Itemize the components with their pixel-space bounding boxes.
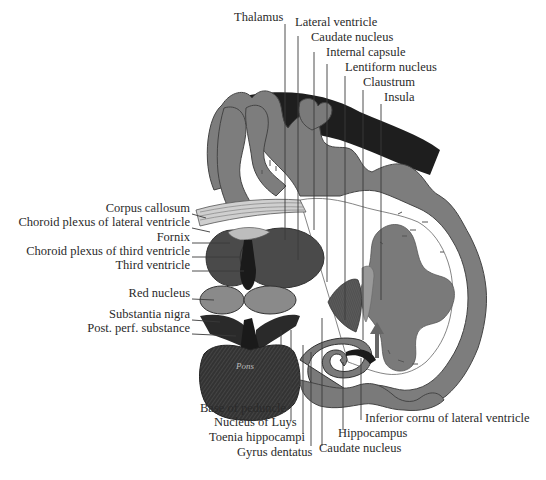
label-base-of-peduncle: Base of peduncle (200, 401, 286, 415)
label-thalamus: Thalamus (234, 10, 283, 24)
label-third-ventricle: Third ventricle (115, 258, 190, 272)
pons-label: Pons (235, 361, 254, 371)
label-choroid-plexus-lateral: Choroid plexus of lateral ventricle (19, 215, 190, 229)
label-inferior-cornu: Inferior cornu of lateral ventricle (365, 411, 530, 425)
label-claustrum: Claustrum (363, 75, 415, 89)
label-internal-capsule: Internal capsule (326, 45, 405, 59)
label-caudate-nucleus-bottom: Caudate nucleus (319, 441, 401, 455)
label-lentiform-nucleus: Lentiform nucleus (345, 60, 437, 74)
red-nucleus-right (244, 286, 296, 314)
label-substantia-nigra: Substantia nigra (109, 307, 190, 321)
brain-coronal-section-diagram: Pons (0, 0, 546, 480)
label-red-nucleus: Red nucleus (129, 286, 190, 300)
label-caudate-nucleus-top: Caudate nucleus (311, 30, 393, 44)
label-insula: Insula (384, 90, 415, 104)
label-gyrus-dentatus: Gyrus dentatus (237, 445, 312, 459)
label-fornix: Fornix (157, 230, 190, 244)
label-nucleus-of-luys: Nucleus of Luys (214, 415, 297, 429)
label-lateral-ventricle: Lateral ventricle (295, 15, 377, 29)
label-corpus-callosum: Corpus callosum (106, 201, 190, 215)
label-hippocampus: Hippocampus (338, 426, 407, 440)
label-choroid-plexus-third: Choroid plexus of third ventricle (26, 244, 190, 258)
label-toenia-hippocampi: Toenia hippocampi (209, 430, 305, 444)
label-post-perf-substance: Post. perf. substance (87, 321, 190, 335)
